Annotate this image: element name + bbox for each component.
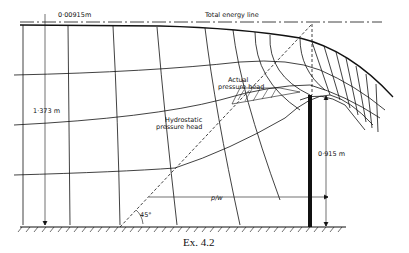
figure-caption: Ex. 4.2 bbox=[183, 236, 214, 248]
flow-net-diagram: 0·00915m Total energy line 1·373 m Actua… bbox=[0, 0, 409, 253]
weir-plate bbox=[308, 95, 312, 227]
actual-pressure-head-label-2: pressure head bbox=[218, 83, 264, 91]
hydrostatic-label-2: pressure head bbox=[156, 123, 202, 131]
energy-gap-label: 0·00915m bbox=[58, 11, 91, 19]
weir-height-label: 0·915 m bbox=[318, 150, 345, 158]
free-surface bbox=[20, 25, 393, 97]
total-energy-line-label: Total energy line bbox=[204, 11, 259, 19]
angle-label: 45° bbox=[140, 211, 152, 219]
p-over-w-label: p/w bbox=[210, 194, 223, 202]
upstream-depth-label: 1·373 m bbox=[33, 107, 60, 115]
